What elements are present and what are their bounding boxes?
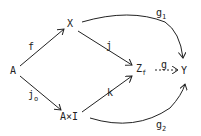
- node-axi: A×I: [60, 112, 78, 122]
- label-g1-sub: 1: [162, 13, 166, 21]
- arrow-g2: [90, 84, 185, 123]
- node-y: Y: [181, 66, 187, 76]
- label-j: j: [106, 41, 112, 51]
- label-k: k: [107, 88, 113, 98]
- node-a: A: [10, 66, 16, 76]
- label-j0-sub: o: [34, 95, 38, 103]
- label-g2-sub: 2: [162, 125, 166, 133]
- label-g: g: [161, 60, 167, 70]
- arrow-j: [78, 31, 132, 65]
- label-f: f: [28, 42, 34, 52]
- arrow-g1: [82, 15, 183, 58]
- arrow-j0: [20, 76, 61, 110]
- arrow-f: [20, 29, 64, 66]
- node-x: X: [67, 19, 73, 29]
- label-j0: jo: [28, 90, 38, 101]
- node-zf-sub: f: [142, 69, 146, 77]
- label-g2: g2: [156, 120, 166, 131]
- label-g1: g1: [156, 8, 166, 19]
- diagram-canvas: [0, 0, 201, 136]
- node-zf: Zf: [136, 64, 146, 75]
